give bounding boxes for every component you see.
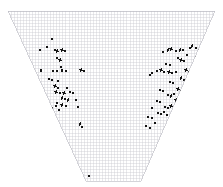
particle-marker — [186, 54, 188, 56]
particle-marker — [59, 92, 61, 94]
particle-marker — [157, 112, 159, 115]
particle-marker — [69, 91, 71, 94]
particle-marker — [51, 38, 53, 40]
particle-marker — [88, 175, 91, 178]
particle-marker — [165, 63, 167, 65]
particle-marker — [58, 109, 60, 111]
particle-marker — [175, 50, 177, 52]
particle-marker — [169, 81, 171, 83]
particle-marker — [171, 72, 173, 75]
particle-marker — [162, 90, 164, 92]
particle-marker — [64, 98, 66, 100]
particle-marker — [39, 49, 41, 52]
particle-marker — [160, 113, 162, 115]
particle-marker — [81, 126, 83, 128]
particle-marker — [162, 51, 164, 53]
particle-marker — [177, 57, 179, 59]
particle-marker — [65, 70, 67, 72]
particle-marker — [66, 87, 68, 89]
particle-marker — [149, 127, 151, 129]
particle-marker — [164, 106, 166, 109]
visualization-root — [0, 0, 223, 187]
particle-marker — [156, 70, 158, 72]
particle-marker — [163, 71, 165, 73]
particle-marker — [55, 105, 57, 107]
particle-marker — [167, 94, 169, 97]
particle-marker — [48, 78, 50, 80]
particle-marker — [83, 70, 85, 72]
particle-marker — [75, 99, 77, 101]
particle-marker — [56, 102, 58, 105]
particle-marker — [64, 50, 66, 52]
particle-marker — [159, 89, 162, 92]
particle-marker — [52, 70, 54, 72]
particle-marker — [173, 93, 175, 95]
particle-marker — [151, 72, 153, 75]
particle-marker — [147, 116, 149, 118]
particle-marker — [156, 100, 158, 103]
particle-marker — [56, 70, 58, 72]
particle-marker — [159, 101, 161, 103]
particle-marker — [145, 125, 147, 127]
particle-marker — [57, 80, 59, 82]
particle-marker — [151, 117, 153, 119]
particle-marker — [40, 69, 42, 72]
particle-marker — [57, 87, 59, 89]
particle-marker — [60, 66, 62, 68]
particle-marker — [195, 47, 197, 49]
particle-marker — [72, 92, 74, 94]
particle-marker — [77, 106, 79, 108]
particle-marker — [183, 60, 185, 62]
particle-marker — [166, 114, 168, 116]
particle-marker — [154, 122, 156, 124]
particle-marker — [65, 105, 67, 107]
particle-marker — [167, 107, 169, 109]
particle-marker — [151, 107, 153, 109]
particle-marker — [149, 74, 151, 76]
particle-marker — [61, 69, 63, 72]
particle-marker — [182, 49, 184, 51]
mesh-scatter-plot — [0, 0, 223, 187]
